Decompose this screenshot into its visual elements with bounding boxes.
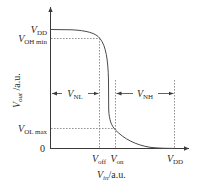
transfer-characteristic-diagram: VDD VOH min VOL max 0 Vout /a.u. Voff Vo… bbox=[0, 0, 198, 187]
axes bbox=[50, 7, 189, 149]
vnl-label: VNL bbox=[67, 88, 82, 101]
y-tick-zero: 0 bbox=[40, 143, 45, 154]
y-tick-labels: VDD VOH min VOL max 0 bbox=[18, 24, 47, 154]
y-tick-vdd: VDD bbox=[31, 24, 47, 37]
x-tick-vdd: VDD bbox=[167, 153, 183, 166]
vnh-noise-margin: VNH bbox=[117, 88, 174, 101]
x-tick-labels: Voff Von VDD bbox=[92, 153, 183, 166]
y-axis-title: Vout /a.u. bbox=[11, 73, 24, 108]
x-axis-title: Vin/a.u. bbox=[97, 169, 126, 182]
x-tick-voff: Voff bbox=[92, 153, 107, 166]
x-tick-von: Von bbox=[110, 153, 124, 166]
vnh-label: VNH bbox=[137, 88, 153, 101]
y-tick-vol-max: VOL max bbox=[18, 123, 47, 136]
vnl-noise-margin: VNL bbox=[52, 88, 99, 101]
